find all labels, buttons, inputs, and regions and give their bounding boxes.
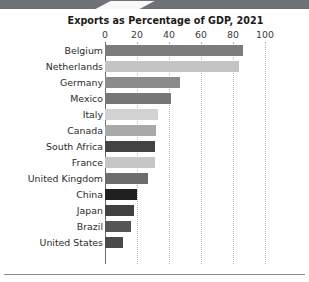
bar-row: United Kingdom	[0, 171, 309, 187]
x-tick-label-20: 20	[131, 29, 143, 40]
bar	[105, 125, 156, 136]
bar	[105, 77, 180, 88]
x-tick-label-100: 100	[256, 29, 274, 40]
x-tick-label-0: 0	[102, 29, 108, 40]
bar-row: South Africa	[0, 139, 309, 155]
bar-category-label: United States	[40, 237, 103, 248]
bar-category-label: Canada	[67, 125, 103, 136]
bar	[105, 205, 134, 216]
bottom-divider	[4, 274, 305, 275]
x-tick-label-40: 40	[163, 29, 175, 40]
bar-category-label: Germany	[60, 77, 103, 88]
bar-row: Canada	[0, 123, 309, 139]
x-axis-tick-labels: 020406080100	[0, 29, 309, 42]
bar-category-label: United Kingdom	[28, 173, 103, 184]
bar-category-label: France	[72, 157, 103, 168]
bar	[105, 237, 123, 248]
top-banner-strip	[0, 0, 309, 9]
bar-category-label: Netherlands	[46, 61, 103, 72]
bar-category-label: Belgium	[65, 45, 103, 56]
bar-row: Brazil	[0, 219, 309, 235]
x-tick-label-60: 60	[195, 29, 207, 40]
bar-category-label: China	[76, 189, 103, 200]
bar-category-label: Mexico	[70, 93, 103, 104]
bar	[105, 93, 171, 104]
bar-series: BelgiumNetherlandsGermanyMexicoItalyCana…	[0, 42, 309, 264]
bar-category-label: Japan	[77, 205, 103, 216]
bar-chart-figure: Exports as Percentage of GDP, 2021 02040…	[0, 9, 309, 274]
bar-row: France	[0, 155, 309, 171]
bar-row: Mexico	[0, 91, 309, 107]
bar-category-label: South Africa	[46, 141, 103, 152]
bar-row: Italy	[0, 107, 309, 123]
bar	[105, 173, 148, 184]
x-tick-label-80: 80	[227, 29, 239, 40]
bar	[105, 141, 155, 152]
bar-row: Netherlands	[0, 59, 309, 75]
bar	[105, 45, 243, 56]
bar	[105, 221, 131, 232]
bar-row: United States	[0, 235, 309, 251]
plot-area: 020406080100 BelgiumNetherlandsGermanyMe…	[0, 9, 309, 274]
bar	[105, 61, 239, 72]
bar	[105, 189, 137, 200]
bar	[105, 157, 155, 168]
bar	[105, 109, 158, 120]
bar-row: Belgium	[0, 43, 309, 59]
banner-notch-shape	[95, 1, 154, 9]
bar-row: China	[0, 187, 309, 203]
bar-row: Japan	[0, 203, 309, 219]
bar-category-label: Italy	[83, 109, 103, 120]
bar-row: Germany	[0, 75, 309, 91]
bar-category-label: Brazil	[77, 221, 103, 232]
